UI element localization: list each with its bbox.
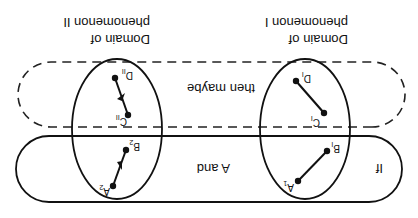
point-D1 bbox=[293, 78, 299, 84]
label-D2: DII bbox=[122, 68, 133, 81]
point-A1 bbox=[295, 178, 301, 184]
label-C1: CI bbox=[311, 115, 320, 128]
domain-I-caption-line2: phenomenon I bbox=[265, 15, 348, 30]
label-B1: BI bbox=[331, 141, 340, 154]
point-D2 bbox=[112, 75, 118, 81]
link-A1-B1 bbox=[298, 151, 327, 181]
link-C1-D1 bbox=[296, 81, 324, 113]
figure-rotated: If A and then maybe Domain of phenomenon… bbox=[16, 15, 405, 202]
point-B1 bbox=[324, 148, 330, 154]
then-maybe-label: then maybe bbox=[187, 81, 255, 96]
a-and-label: A and bbox=[197, 161, 230, 176]
link-A2-B2 bbox=[113, 150, 126, 186]
if-label: If bbox=[375, 161, 383, 176]
domain-II-caption-line1: Domain of bbox=[90, 32, 150, 47]
phenomena-domain-diagram: If A and then maybe Domain of phenomenon… bbox=[0, 0, 418, 218]
label-D1: DI bbox=[302, 71, 311, 84]
point-C1 bbox=[321, 110, 327, 116]
domain-II-caption-line2: phenomenon II bbox=[63, 15, 150, 30]
label-B2: B2 bbox=[129, 139, 140, 152]
point-B2 bbox=[123, 147, 129, 153]
domain-I-caption-line1: Domain of bbox=[288, 32, 348, 47]
